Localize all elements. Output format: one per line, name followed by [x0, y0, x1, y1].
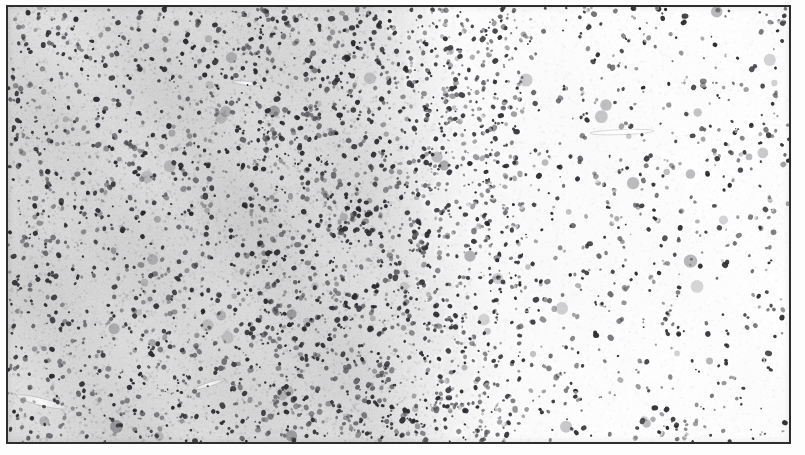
tissue-section-canvas	[8, 7, 789, 442]
figure-root	[0, 0, 805, 455]
micrograph-image	[8, 7, 789, 442]
micrograph-frame	[6, 5, 791, 444]
